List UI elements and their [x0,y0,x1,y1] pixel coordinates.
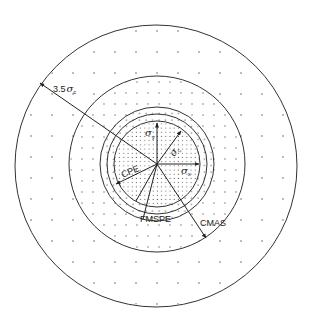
label-3-5-sigma-c: 3.5σc [53,83,76,95]
error-circle-diagram: 3.5σc σy σc σx CPE FMSPE CMAS [0,0,311,322]
label-fmspe: FMSPE [140,214,171,224]
label-cmas: CMAS [200,218,226,228]
